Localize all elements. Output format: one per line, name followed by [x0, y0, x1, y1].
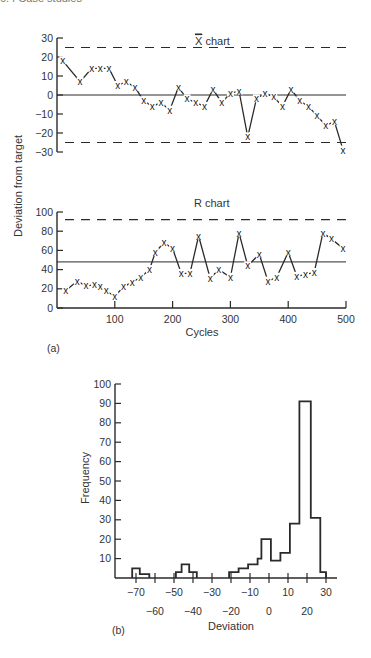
data-point-x-marker: x	[294, 271, 299, 282]
data-point-x-marker: x	[286, 247, 291, 258]
hist-x-tick-label: −30	[203, 586, 221, 598]
hist-y-tick-label: 100	[93, 378, 111, 390]
data-point-x-marker: x	[153, 247, 158, 258]
data-point-x-marker: x	[193, 97, 198, 108]
hist-y-tick-label: 80	[99, 416, 111, 428]
data-point-x-marker: x	[92, 279, 97, 290]
data-point-x-marker: x	[185, 93, 190, 104]
hist-x-tick-label: −20	[222, 605, 240, 617]
figure: 3020100−10−20−30xxxxxxxxxxxxxxxxxxxxxxxx…	[0, 0, 371, 658]
data-point-x-marker: x	[297, 95, 302, 106]
hist-x-tick-label: 30	[320, 586, 332, 598]
data-point-x-marker: x	[63, 285, 68, 296]
data-point-x-marker: x	[245, 260, 250, 271]
xbar-chart-title: X chart	[195, 35, 230, 47]
data-point-x-marker: x	[179, 268, 184, 279]
hist-y-tick-label: 20	[99, 533, 111, 545]
panel-a-xlabel: Cycles	[185, 326, 219, 338]
data-point-x-marker: x	[208, 273, 213, 284]
data-point-x-marker: x	[257, 249, 262, 260]
data-point-x-marker: x	[312, 267, 317, 278]
y-tick-label: −20	[35, 127, 53, 139]
y-tick-label: 40	[41, 263, 53, 275]
data-point-x-marker: x	[161, 237, 166, 248]
data-point-x-marker: x	[141, 95, 146, 106]
panel-b-ylabel: Frequency	[79, 452, 91, 504]
data-point-x-marker: x	[147, 264, 152, 275]
data-point-x-marker: x	[187, 268, 192, 279]
data-point-x-marker: x	[216, 264, 221, 275]
data-point-x-marker: x	[98, 281, 103, 292]
data-point-x-marker: x	[341, 243, 346, 254]
data-point-x-marker: x	[98, 63, 103, 74]
deviation-histogram: 102030405060708090100−70−50−30−101030−60…	[93, 378, 337, 618]
hist-y-tick-label: 30	[99, 513, 111, 525]
data-point-x-marker: x	[115, 80, 120, 91]
data-point-x-marker: x	[75, 276, 80, 287]
data-point-x-marker: x	[265, 276, 270, 287]
r-chart: 100806040200xxxxxxxxxxxxxxxxxxxxxxxxxxxx…	[35, 206, 354, 326]
data-point-x-marker: x	[83, 280, 88, 291]
data-point-x-marker: x	[263, 88, 268, 99]
data-point-x-marker: x	[202, 101, 207, 112]
xbar-chart: 3020100−10−20−30xxxxxxxxxxxxxxxxxxxxxxxx…	[35, 32, 346, 158]
x-tick-label: 300	[222, 313, 240, 325]
data-point-x-marker: x	[237, 86, 242, 97]
panel-b-xlabel: Deviation	[208, 620, 254, 632]
data-point-x-marker: x	[138, 272, 143, 283]
data-point-x-marker: x	[60, 55, 65, 66]
hist-y-tick-label: 70	[99, 436, 111, 448]
data-point-x-marker: x	[320, 228, 325, 239]
data-point-x-marker: x	[306, 101, 311, 112]
hist-y-tick-label: 60	[99, 455, 111, 467]
data-point-x-marker: x	[237, 228, 242, 239]
data-point-x-marker: x	[329, 233, 334, 244]
histogram-bars	[176, 564, 197, 578]
data-point-x-marker: x	[196, 231, 201, 242]
data-point-x-marker: x	[133, 82, 138, 93]
data-point-x-marker: x	[150, 101, 155, 112]
x-tick-label: 200	[164, 313, 182, 325]
data-point-x-marker: x	[254, 93, 259, 104]
hist-x-tick-label: −60	[146, 605, 164, 617]
y-tick-label: 100	[35, 206, 53, 218]
data-point-x-marker: x	[289, 84, 294, 95]
data-point-x-marker: x	[159, 97, 164, 108]
data-point-x-marker: x	[323, 120, 328, 131]
x-tick-label: 100	[106, 313, 124, 325]
y-tick-label: 0	[47, 89, 53, 101]
data-point-x-marker: x	[124, 76, 129, 87]
histogram-bars	[229, 401, 326, 578]
data-point-x-marker: x	[332, 116, 337, 127]
hist-x-tick-label: −50	[165, 586, 183, 598]
data-point-x-marker: x	[211, 84, 216, 95]
data-point-x-marker: x	[271, 91, 276, 102]
hist-x-tick-label: −40	[184, 605, 202, 617]
panel-b-label: (b)	[112, 624, 125, 636]
data-point-x-marker: x	[107, 63, 112, 74]
x-tick-label: 500	[337, 313, 355, 325]
y-tick-label: −30	[35, 146, 53, 158]
x-tick-label: 400	[279, 313, 297, 325]
panel-a-ylabel: Deviation from target	[12, 135, 24, 237]
hist-y-tick-label: 90	[99, 397, 111, 409]
y-tick-label: 0	[47, 302, 53, 314]
y-tick-label: −10	[35, 108, 53, 120]
data-point-x-marker: x	[170, 243, 175, 254]
data-point-x-marker: x	[78, 76, 83, 87]
data-point-x-marker: x	[112, 291, 117, 302]
data-point-x-marker: x	[121, 281, 126, 292]
y-tick-label: 10	[41, 70, 53, 82]
y-tick-label: 20	[41, 282, 53, 294]
r-chart-title: R chart	[194, 197, 229, 209]
data-point-x-marker: x	[245, 131, 250, 142]
y-tick-label: 20	[41, 51, 53, 63]
y-tick-label: 80	[41, 225, 53, 237]
hist-x-tick-label: −70	[127, 586, 145, 598]
hist-x-tick-label: 0	[266, 605, 272, 617]
y-tick-label: 30	[41, 32, 53, 44]
data-point-x-marker: x	[303, 269, 308, 280]
hist-y-tick-label: 10	[99, 552, 111, 564]
histogram-bars	[132, 568, 149, 578]
data-point-x-marker: x	[280, 101, 285, 112]
